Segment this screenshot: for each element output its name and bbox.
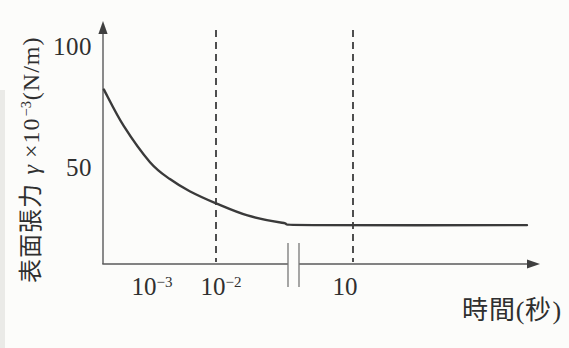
y-axis-title: 表面張力γ×10−3(N/m): [19, 37, 43, 284]
y-tick-50: 50: [66, 155, 92, 180]
y-axis-title-times: ×10: [18, 117, 44, 158]
x-tick-10-base: 10: [333, 273, 358, 300]
x-tick-1e-3: 10−3: [132, 274, 173, 299]
x-tick-1e-2-base: 10: [201, 273, 226, 300]
x-axis-title: 時間(秒): [462, 295, 562, 326]
gamma-symbol: γ: [18, 164, 44, 174]
x-tick-1e-2: 10−2: [201, 274, 242, 299]
x-tick-1e-3-exponent: −3: [157, 274, 173, 290]
x-tick-1e-2-exponent: −2: [226, 274, 242, 290]
surface-tension-figure: 100 50 10−3 10−2 10 時間(秒) 表面張力γ×10−3(N/m…: [0, 0, 569, 348]
y-axis-title-text: 表面張力: [18, 183, 44, 283]
y-tick-100: 100: [53, 34, 92, 59]
y-axis-title-unit: (N/m): [18, 37, 44, 101]
x-axis-arrowhead-icon: [527, 259, 540, 268]
x-tick-10: 10: [333, 274, 358, 299]
y-axis-arrowhead-icon: [98, 21, 107, 34]
surface-tension-curve: [104, 90, 527, 226]
y-axis-title-exponent: −3: [18, 101, 34, 116]
x-tick-1e-3-base: 10: [132, 273, 157, 300]
